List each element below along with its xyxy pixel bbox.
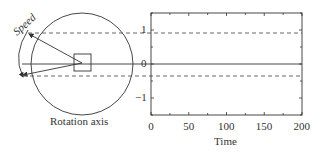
x-tick-label: 0 xyxy=(148,121,154,132)
x-tick-label: 50 xyxy=(183,121,194,132)
rotation-diagram xyxy=(19,13,151,115)
speed-label: Speed xyxy=(10,11,38,38)
lower-arrow xyxy=(23,63,82,75)
figure-canvas: Speed xyxy=(0,0,323,153)
y-tick-label: 0 xyxy=(141,58,147,69)
upper-arrow xyxy=(29,34,82,63)
x-tick-label: 100 xyxy=(218,121,235,132)
x-tick-label: 150 xyxy=(256,121,273,132)
center-box xyxy=(74,54,91,71)
y-tick-label: −1 xyxy=(135,92,147,103)
x-axis-title: Time xyxy=(214,136,237,147)
x-tick-label: 200 xyxy=(294,121,311,132)
rotation-axis-label: Rotation axis xyxy=(50,116,108,127)
speed-arc xyxy=(19,30,28,77)
y-tick-label: 1 xyxy=(141,24,147,35)
plot-area xyxy=(151,13,302,115)
